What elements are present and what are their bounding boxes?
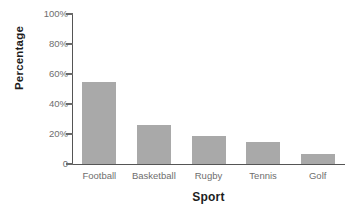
x-axis-tick-label: Football [72, 170, 127, 181]
x-axis-title: Sport [72, 190, 345, 204]
y-axis-tick-label: 60% [24, 69, 68, 79]
x-axis-tick-labels: FootballBasketballRugbyTennisGolf [72, 170, 345, 186]
bar-tennis [246, 142, 280, 165]
x-axis-tick-label: Rugby [181, 170, 236, 181]
x-axis-tick-label: Basketball [127, 170, 182, 181]
bar-rugby [192, 136, 226, 165]
y-axis-tick-label: 20% [24, 129, 68, 139]
y-axis-tick-labels: 020%40%60%80%100% [24, 0, 68, 218]
y-axis-tick-label: 40% [24, 99, 68, 109]
x-axis-line [72, 164, 345, 166]
x-axis-tick-label: Tennis [236, 170, 291, 181]
bar-basketball [137, 125, 171, 164]
y-axis-tick-label: 0 [24, 159, 68, 169]
bar-chart: Percentage 020%40%60%80%100% FootballBas… [0, 0, 361, 218]
plot-area [72, 14, 345, 164]
y-axis-tick-label: 80% [24, 39, 68, 49]
bars-group [72, 14, 345, 164]
bar-football [82, 82, 116, 165]
x-axis-tick-label: Golf [290, 170, 345, 181]
bar-golf [301, 154, 335, 165]
y-axis-tick-label: 100% [24, 9, 68, 19]
